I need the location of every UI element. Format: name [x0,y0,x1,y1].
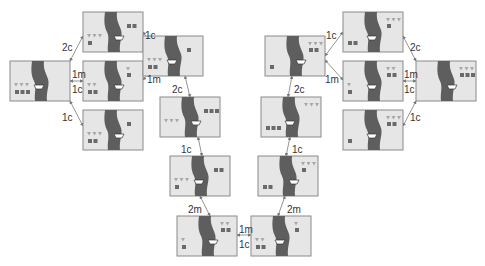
edge-label: 1m [147,75,161,85]
missionary-icon [227,228,231,232]
edge-I-H [288,76,292,97]
edge-label: 1c [145,31,156,41]
edge-label: 2c [294,85,305,95]
edge-label: 1c [181,145,192,155]
missionary-icon [387,73,391,77]
edge-label-secondary: 1c [72,85,83,95]
edge-label: 1c [410,113,421,123]
missionary-icon [348,41,352,45]
missionary-icon [94,90,98,94]
state-K [416,61,476,101]
missionary-icon [466,73,470,77]
edge-label: 1c [292,145,303,155]
missionary-icon [302,168,306,172]
boat-icon [367,36,377,40]
edge-label: 1m [239,225,253,235]
edge-H-G [286,137,290,156]
boat-icon [191,121,201,125]
missionary-icon [295,228,299,232]
boat-icon [114,134,124,138]
state-J1 [343,12,403,52]
edge-label-secondary: 1c [404,85,415,95]
missionary-icon [15,90,19,94]
state-I [265,36,325,76]
state-L0 [10,61,70,101]
missionary-icon [215,109,219,113]
edge-C-D [198,137,202,156]
missionary-icon [256,245,260,249]
missionary-icon [214,168,218,172]
edge-label: 1m [325,75,339,85]
missionary-icon [21,90,25,94]
missionary-icon [393,73,397,77]
missionary-icon [133,24,137,28]
edge-label: 2m [287,205,301,215]
missionary-icon [263,185,267,189]
boat-icon [114,36,124,40]
boat-icon [447,85,457,89]
state-B [143,36,203,76]
edge-label: 1m [404,70,418,80]
missionary-icon [262,245,266,249]
edge-G-F [278,196,285,216]
missionary-icon [127,122,131,126]
missionary-icon [88,90,92,94]
missionary-icon [127,24,131,28]
missionary-icon [387,24,391,28]
state-E [177,216,237,256]
missionary-icon [210,109,214,113]
edge-B-C [185,76,190,97]
state-J3 [343,110,403,150]
boat-icon [208,240,218,244]
missionary-icon [127,73,131,77]
boat-icon [296,60,306,64]
missionary-icon [309,48,313,52]
state-nodes [10,12,476,256]
missionary-icon [270,65,274,69]
edge-label: 1m [72,70,86,80]
state-F [251,216,311,256]
missionary-icon [175,185,179,189]
missionary-icon [266,126,270,130]
state-A3 [83,110,143,150]
edge-label-secondary: 1c [239,240,250,250]
boat-icon [194,180,204,184]
boat-icon [275,240,285,244]
missionary-icon [88,41,92,45]
boat-icon [367,85,377,89]
edge-label: 2m [188,205,202,215]
boat-icon [34,85,44,89]
missionary-icon [272,126,276,130]
missionary-icon [148,65,152,69]
missionary-icon [471,73,475,77]
missionary-icon [187,48,191,52]
missionary-icon [387,122,391,126]
boat-icon [114,85,124,89]
boat-icon [167,60,177,64]
state-J2 [343,61,403,101]
state-C [160,97,220,137]
missionary-icon [220,168,224,172]
edge-label: 1c [326,31,337,41]
edge-label: 2c [410,43,421,53]
edge-label: 2c [172,85,183,95]
state-H [261,97,321,137]
missionary-icon [315,48,319,52]
boat-icon [367,134,377,138]
state-G [258,156,318,196]
missionary-icon [393,122,397,126]
missionary-icon [221,228,225,232]
missionary-icon [269,185,273,189]
missionary-icon [348,139,352,143]
boat-icon [289,180,299,184]
state-A1 [83,12,143,52]
missionary-icon [94,139,98,143]
boat-icon [285,121,295,125]
missionary-icon [348,90,352,94]
missionary-icon [460,73,464,77]
state-A2 [83,61,143,101]
missionary-icon [26,90,30,94]
edge-label: 1c [62,113,73,123]
missionary-icon [182,245,186,249]
missionary-icon [277,126,281,130]
